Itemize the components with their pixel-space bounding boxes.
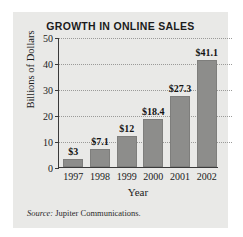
bar-value-label: $7.1: [91, 136, 109, 147]
source-text: Jupiter Communications.: [55, 208, 140, 218]
x-tick-label: 2000: [143, 171, 163, 182]
bar-group[interactable]: $27.3: [167, 37, 193, 167]
y-tick-label: 20: [43, 111, 53, 122]
bar[interactable]: [143, 119, 163, 167]
y-tick-label: 50: [43, 33, 53, 44]
chart-figure: GROWTH IN ONLINE SALES 01020304050 $3$7.…: [13, 12, 228, 228]
y-tick-label: 10: [43, 137, 53, 148]
bar-group[interactable]: $7.1: [87, 37, 113, 167]
chart-title: GROWTH IN ONLINE SALES: [13, 20, 228, 32]
bar-series: $3$7.1$12$18.4$27.3$41.1: [59, 38, 218, 167]
bar-group[interactable]: $3: [60, 37, 86, 167]
bar-value-label: $12: [119, 123, 134, 134]
y-axis-title: Billions of Dollars: [25, 22, 36, 118]
bar-group[interactable]: $41.1: [194, 37, 220, 167]
bar[interactable]: [90, 149, 110, 167]
bar[interactable]: [63, 159, 83, 167]
y-tick-label: 0: [48, 163, 53, 174]
bar-group[interactable]: $12: [114, 37, 140, 167]
bar-group[interactable]: $18.4: [140, 37, 166, 167]
source-note: Source: Jupiter Communications.: [27, 208, 141, 218]
x-axis-title: Year: [58, 186, 218, 198]
x-tick-label: 2002: [197, 171, 217, 182]
x-tick-label: 1998: [90, 171, 110, 182]
bar-value-label: $3: [68, 146, 78, 157]
bar-value-label: $41.1: [195, 47, 218, 58]
plot-area: 01020304050 $3$7.1$12$18.4$27.3$41.1 199…: [58, 38, 218, 168]
bar[interactable]: [197, 60, 217, 167]
y-tick-label: 40: [43, 59, 53, 70]
bar[interactable]: [170, 96, 190, 167]
bar[interactable]: [117, 136, 137, 167]
x-tick-label: 1997: [63, 171, 83, 182]
source-prefix: Source:: [27, 208, 53, 218]
y-tick-label: 30: [43, 85, 53, 96]
x-tick-label: 2001: [170, 171, 190, 182]
bar-value-label: $27.3: [169, 83, 192, 94]
y-tick-mark: [55, 168, 59, 169]
bar-value-label: $18.4: [142, 106, 165, 117]
x-tick-label: 1999: [117, 171, 137, 182]
